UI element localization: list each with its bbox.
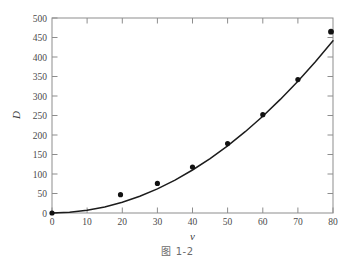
data-point xyxy=(118,192,123,197)
data-point xyxy=(225,141,230,146)
y-tick-labels: 0 50 100 150 200 250 300 350 400 450 500 xyxy=(33,14,48,219)
data-point xyxy=(155,181,160,186)
plot-frame xyxy=(52,18,333,213)
y-axis-ticks xyxy=(52,18,58,213)
x-tick-label: 40 xyxy=(188,217,198,227)
x-tick-label: 50 xyxy=(223,217,233,227)
y-tick-label: 450 xyxy=(33,33,48,43)
x-tick-label: 0 xyxy=(50,217,55,227)
data-point xyxy=(328,29,334,35)
y-tick-label: 500 xyxy=(33,14,48,24)
y-tick-label: 200 xyxy=(33,131,48,141)
data-point xyxy=(190,164,195,169)
y-tick-label: 50 xyxy=(38,189,48,199)
x-axis-ticks-top xyxy=(87,18,298,24)
y-axis-title: D xyxy=(10,111,22,120)
x-tick-label: 60 xyxy=(258,217,268,227)
figure-container: 0 10 20 30 40 50 60 70 80 0 50 100 150 2… xyxy=(0,0,355,271)
scatter-plot: 0 10 20 30 40 50 60 70 80 0 50 100 150 2… xyxy=(0,0,355,271)
y-tick-label: 150 xyxy=(33,150,48,160)
data-points xyxy=(49,29,334,216)
data-point xyxy=(260,112,265,117)
fitted-curve-line xyxy=(52,41,333,213)
data-point xyxy=(49,210,54,215)
y-tick-label: 0 xyxy=(42,209,47,219)
x-tick-label: 30 xyxy=(153,217,163,227)
x-tick-label: 10 xyxy=(82,217,92,227)
figure-caption: 图 1-2 xyxy=(0,243,355,258)
y-axis-ticks-right xyxy=(328,38,334,194)
y-tick-label: 250 xyxy=(33,111,48,121)
data-point xyxy=(295,77,300,82)
y-tick-label: 400 xyxy=(33,53,48,63)
x-tick-label: 20 xyxy=(118,217,128,227)
x-tick-labels: 0 10 20 30 40 50 60 70 80 xyxy=(50,217,338,227)
y-tick-label: 350 xyxy=(33,72,48,82)
x-tick-label: 70 xyxy=(293,217,303,227)
x-tick-label: 80 xyxy=(328,217,338,227)
y-tick-label: 100 xyxy=(33,170,48,180)
y-tick-label: 300 xyxy=(33,92,48,102)
x-axis-title: v xyxy=(190,230,195,242)
